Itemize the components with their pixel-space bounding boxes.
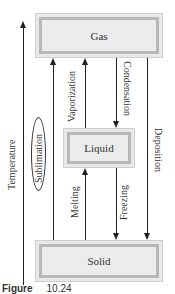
deposition-arrow-line <box>147 58 148 234</box>
deposition-label: Deposition <box>153 128 164 172</box>
solid-label: Solid <box>87 255 110 267</box>
vaporization-arrow-line <box>85 64 86 128</box>
figure-caption-label: Figure <box>2 283 33 294</box>
vaporization-label: Vaporization <box>66 71 77 122</box>
liquid-label: Liquid <box>84 142 113 154</box>
temperature-axis-line <box>23 27 24 285</box>
sublimation-arrowhead <box>50 58 56 65</box>
gas-label: Gas <box>90 30 107 42</box>
condensation-arrowhead <box>113 121 119 128</box>
sublimation-label: Sublimation <box>33 134 44 183</box>
figure-caption-number: 10.24 <box>47 283 72 294</box>
vaporization-arrowhead <box>82 58 88 65</box>
freezing-arrowhead <box>113 233 119 240</box>
deposition-arrowhead <box>144 233 150 240</box>
melting-arrowhead <box>82 168 88 175</box>
liquid-box: Liquid <box>63 128 135 168</box>
sublimation-arrow-line <box>53 64 54 240</box>
gas-box: Gas <box>35 13 163 58</box>
melting-label: Melting <box>69 186 80 218</box>
condensation-label: Condensation <box>122 61 133 116</box>
solid-box: Solid <box>35 240 163 282</box>
freezing-label: Freezing <box>118 185 129 220</box>
temperature-label: Temperature <box>6 140 17 190</box>
melting-arrow-line <box>85 174 86 240</box>
temperature-axis-arrowhead <box>20 21 26 28</box>
freezing-arrow-line <box>116 168 117 234</box>
figure-caption: Figure10.24 <box>2 283 72 294</box>
condensation-arrow-line <box>116 58 117 122</box>
